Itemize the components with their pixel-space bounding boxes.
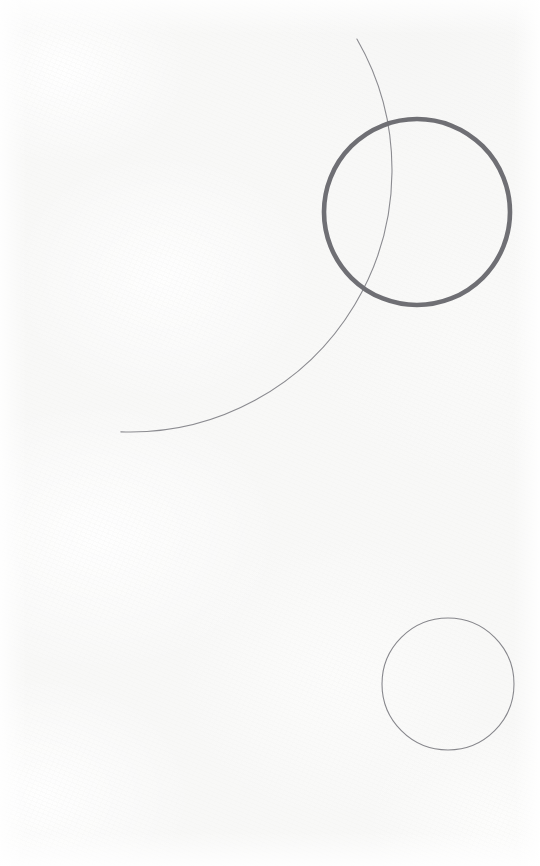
- small-circle: [382, 618, 514, 750]
- bold-circle: [324, 119, 510, 305]
- large-thin-arc: [121, 39, 392, 432]
- artwork-canvas: Abstract minimal line drawing on off-whi…: [0, 0, 540, 866]
- artwork-vector-layer: [0, 0, 540, 866]
